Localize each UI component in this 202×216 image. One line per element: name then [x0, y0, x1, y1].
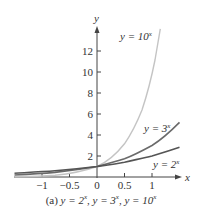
chart-canvas: y x 12 10 8 6 4 2 −1 −0.5 0 0.5 1 y = — [0, 0, 202, 216]
y-tick-8: 8 — [88, 87, 94, 99]
curve-2-label: y = 2x — [152, 158, 180, 170]
x-axis-arrow-icon — [175, 175, 182, 180]
caption-eq2: y = 3 — [93, 194, 116, 206]
y-ticks — [97, 51, 101, 156]
y-tick-labels: 12 10 8 6 4 2 — [82, 45, 94, 162]
curve-10-label: y = 10x — [119, 30, 153, 42]
y-tick-12: 12 — [82, 45, 93, 57]
caption-eq3: y = 10 — [124, 194, 153, 206]
caption-eq1: y = 2 — [61, 194, 84, 206]
caption-prefix: (a) — [46, 194, 61, 206]
x-axis-label: x — [184, 171, 190, 183]
x-tick-0: 0 — [94, 179, 100, 191]
y-tick-6: 6 — [88, 108, 94, 120]
x-tick-neg05: −0.5 — [60, 179, 80, 191]
x-tick-05: 0.5 — [118, 179, 132, 191]
x-tick-1: 1 — [149, 179, 155, 191]
figure-caption: (a) y = 2x, y = 3x, y = 10x — [0, 193, 202, 206]
caption-exp3: x — [153, 193, 156, 201]
y-axis-arrow-icon — [95, 26, 100, 33]
y-axis-label: y — [93, 12, 99, 24]
x-tick-labels: −1 −0.5 0 0.5 1 — [36, 179, 155, 191]
y-tick-4: 4 — [88, 129, 94, 141]
y-tick-10: 10 — [82, 66, 94, 78]
y-tick-2: 2 — [88, 150, 94, 162]
curve-3-label: y = 3x — [143, 122, 171, 134]
x-tick-neg1: −1 — [36, 179, 48, 191]
